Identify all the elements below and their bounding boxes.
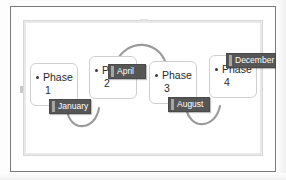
milestone-december-text: December — [235, 55, 278, 66]
page-shade-bottom — [0, 173, 286, 180]
accent-bar-icon — [111, 66, 114, 77]
accent-bar-icon — [171, 99, 174, 110]
bullet-icon — [95, 69, 98, 72]
bullet-icon — [215, 68, 218, 71]
phase-box-3-label: Phase — [162, 69, 192, 81]
bullet-icon — [36, 76, 39, 79]
phase-box-1-number: 1 — [45, 84, 51, 96]
milestone-label-january[interactable]: January — [49, 99, 91, 114]
phase-box-3-number-row: 3 — [164, 82, 193, 94]
accent-bar-icon — [52, 101, 55, 112]
phase-box-4-number-row: 4 — [224, 76, 253, 88]
page-shade-right — [276, 0, 286, 180]
phase-box-3-number: 3 — [164, 82, 170, 94]
milestone-january-text: January — [58, 101, 92, 112]
milestone-label-april[interactable]: April — [108, 64, 146, 79]
milestone-label-december[interactable]: December — [226, 53, 276, 68]
bullet-icon — [155, 74, 158, 77]
milestone-april-text: April — [117, 66, 138, 77]
phase-box-4-number: 4 — [224, 76, 230, 88]
phase-box-3-content: Phase — [155, 69, 193, 81]
scanned-page: Phase 1 Phase 2 Phase 3 — [0, 0, 286, 180]
milestone-label-august[interactable]: August — [168, 97, 210, 112]
phase-box-1-number-row: 1 — [45, 84, 74, 96]
phase-box-1-label: Phase — [43, 71, 73, 83]
phase-box-1-content: Phase — [36, 71, 74, 83]
accent-bar-icon — [229, 55, 232, 66]
phase-timeline-diagram: Phase 1 Phase 2 Phase 3 — [23, 20, 263, 156]
milestone-august-text: August — [177, 99, 207, 110]
